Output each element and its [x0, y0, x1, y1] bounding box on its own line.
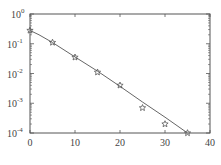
- y-axis: 10010-110-210-310-4: [7, 7, 210, 139]
- y-tick-label: 10-3: [7, 96, 23, 109]
- x-tick-label: 40: [205, 137, 215, 148]
- x-axis: 010203040: [28, 14, 216, 148]
- y-tick-label: 10-1: [7, 37, 23, 50]
- star-marker: [162, 121, 168, 127]
- x-tick-label: 0: [28, 137, 33, 148]
- x-tick-label: 30: [160, 137, 170, 148]
- theory-line: [30, 30, 188, 133]
- star-marker: [139, 105, 145, 111]
- chart: 10010-110-210-310-4 010203040: [0, 0, 221, 165]
- y-tick-label: 100: [11, 7, 25, 20]
- y-tick-label: 10-2: [7, 67, 23, 80]
- x-tick-label: 20: [115, 137, 125, 148]
- x-tick-label: 10: [70, 137, 80, 148]
- data-markers: [27, 27, 191, 136]
- y-tick-label: 10-4: [7, 126, 23, 139]
- plot-frame: [30, 14, 210, 133]
- star-marker: [117, 82, 123, 88]
- plot-border: [30, 14, 210, 133]
